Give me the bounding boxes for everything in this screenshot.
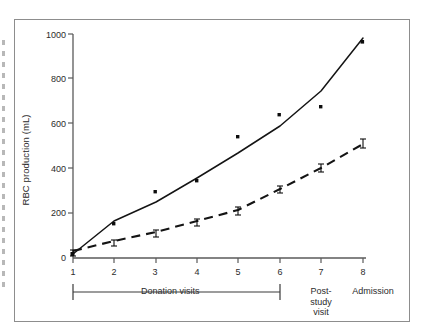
data-point-dashed-2 [111, 240, 117, 246]
data-point-dashed-8 [360, 139, 366, 148]
data-point-solid-3 [154, 190, 157, 193]
dashed-series-markers [70, 139, 366, 256]
donation-visits-bracket [73, 284, 280, 300]
chart-canvas [0, 0, 431, 336]
data-point-solid-8 [361, 40, 365, 44]
axes-group [68, 34, 366, 263]
figure-root: RBC production (mL) 1000 800 600 400 200… [0, 0, 431, 336]
data-point-solid-7 [319, 105, 322, 108]
dashed-series-line [73, 144, 363, 251]
data-point-solid-4 [195, 179, 198, 182]
data-point-solid-5 [236, 135, 239, 138]
data-point-solid-6 [278, 113, 281, 116]
solid-series-line [73, 38, 363, 254]
data-point-solid-2 [112, 222, 115, 225]
solid-series-markers [71, 40, 365, 256]
